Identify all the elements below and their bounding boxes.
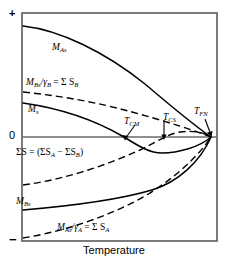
- masga-tail: /γ: [72, 222, 78, 232]
- y-axis-positive-sign: +: [9, 8, 15, 19]
- tcs-sub: CS: [168, 116, 176, 123]
- mbsgb-eq: = Σ S: [51, 77, 74, 87]
- curve-label-m-as-sub: As: [60, 46, 67, 53]
- mbsgb-tail-sub: B: [47, 81, 51, 88]
- curve-label-m-as-base: M: [52, 42, 60, 52]
- t-cm-leader-arrow: [122, 125, 135, 141]
- curve-m-bs-over-gamma-b: [23, 92, 211, 137]
- sigma-close: ): [80, 147, 83, 157]
- curve-label-m-s-base: M: [28, 104, 36, 114]
- curve-sigma-s: [23, 131, 211, 185]
- figure-container: + − 0 Temperature MAs MBs/γB = Σ SB Ms Σ…: [0, 0, 228, 263]
- masga-sub: As: [65, 226, 72, 233]
- sigma-mid: − ΣS: [55, 147, 76, 157]
- curve-label-sigma-s-equation: ΣS = (ΣSA − ΣSB): [16, 148, 83, 158]
- annotation-label-t-cs: TCS: [163, 113, 176, 123]
- x-axis-label: Temperature: [0, 245, 228, 256]
- curve-label-m-bs: MBs: [16, 197, 31, 207]
- mbsgb-eq-sub: B: [74, 81, 78, 88]
- tcm-sub: CM: [129, 120, 139, 127]
- curve-m-s: [23, 103, 211, 153]
- y-axis-zero-label: 0: [9, 130, 15, 141]
- mbsgb-sub: Bs: [34, 81, 41, 88]
- curve-label-m-bs-base: M: [16, 196, 24, 206]
- curve-label-m-as-over-gamma-a: MAs/γA = Σ SA: [57, 223, 109, 233]
- sigma-sub1: A: [51, 151, 55, 158]
- masga-tail-sub: A: [78, 226, 82, 233]
- sigma-sub2: B: [76, 151, 80, 158]
- tfn-sub: FN: [199, 110, 207, 117]
- curve-label-m-bs-sub: Bs: [24, 200, 31, 207]
- mbsgb-tail: /γ: [41, 77, 47, 87]
- curve-label-m-bs-over-gamma-b: MBs/γB = Σ SB: [26, 78, 78, 88]
- masga-eq: = Σ S: [82, 222, 105, 232]
- masga-eq-sub: A: [105, 226, 109, 233]
- curve-label-m-as: MAs: [52, 43, 67, 53]
- chart-canvas: [0, 0, 228, 263]
- curve-label-m-s: Ms: [28, 105, 39, 115]
- masga-base: M: [57, 222, 65, 232]
- curve-label-m-s-sub: s: [36, 108, 39, 115]
- sigma-text: ΣS = (ΣS: [16, 147, 51, 157]
- annotation-label-t-cm: TCM: [124, 117, 139, 127]
- mbsgb-base: M: [26, 77, 34, 87]
- annotation-label-t-fn: TFN: [194, 107, 208, 117]
